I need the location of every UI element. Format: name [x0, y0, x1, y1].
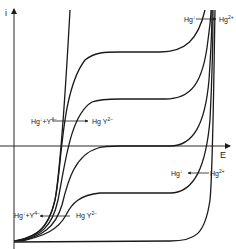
current-potential-diagram: i E Hg↓+Y4− Hg Y2− Hg↓+Y4− Hg Y2− Hg↓ Hg…	[0, 0, 236, 249]
plateau-curve-4	[22, 10, 213, 241]
annotation-hg-hg2-lower: Hg↓ Hg2+	[171, 168, 225, 178]
svg-text:Hg Y2−: Hg Y2−	[76, 210, 97, 220]
annotation-hg-y4-upper: Hg↓+Y4− Hg Y2−	[31, 116, 113, 126]
svg-text:Hg Y2−: Hg Y2−	[92, 116, 113, 126]
baseline-curve	[14, 10, 215, 242]
plateau-curve-2	[18, 10, 211, 241]
svg-text:Hg↓: Hg↓	[184, 14, 195, 24]
svg-text:Hg↓+Y4−: Hg↓+Y4−	[31, 116, 57, 126]
svg-text:Hg↓: Hg↓	[171, 168, 182, 178]
e-axis-label: E	[220, 150, 226, 160]
svg-text:Hg2+: Hg2+	[219, 14, 234, 24]
annotation-hg-hg2-upper: Hg↓ Hg2+	[184, 14, 234, 24]
svg-text:Hg↓+Y4−: Hg↓+Y4−	[14, 210, 40, 220]
plateau-curve-3	[20, 10, 212, 241]
svg-text:Hg2+: Hg2+	[210, 168, 225, 178]
plateau-curve-1	[16, 10, 205, 241]
i-axis-label: i	[5, 8, 7, 18]
